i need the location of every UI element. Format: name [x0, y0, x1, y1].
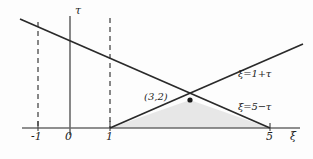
line-equation-label-upper: ξ=1+τ — [238, 68, 271, 79]
intersection-point-label: (3,2) — [144, 91, 168, 102]
y-axis-label-tau: τ — [75, 4, 81, 17]
intersection-point-marker — [187, 97, 192, 102]
figure-container: -1 0 1 5 τ ξ ξ=1+τ ξ=5−τ (3,2) — [0, 0, 313, 159]
x-axis-label-xi: ξ — [290, 130, 296, 143]
line-equation-label-lower: ξ=5−τ — [238, 101, 271, 112]
characteristic-line-5-minus-tau — [20, 19, 270, 128]
tick-label-zero: 0 — [65, 130, 72, 143]
tick-label-minus-one: -1 — [31, 130, 42, 143]
tick-label-five: 5 — [266, 130, 273, 143]
tick-label-one: 1 — [106, 130, 113, 143]
